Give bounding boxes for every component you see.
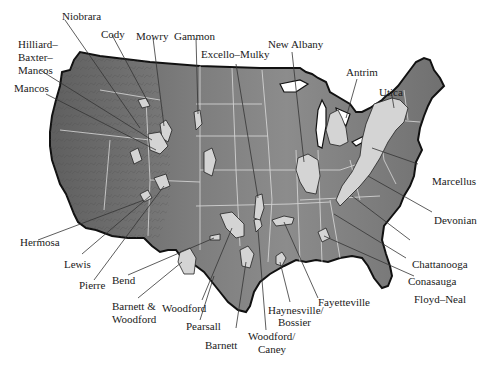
label-lewis: Lewis <box>64 258 91 270</box>
label-fayetteville: Fayetteville <box>318 296 370 308</box>
label-marcellus: Marcellus <box>432 175 476 187</box>
label-gammon: Gammon <box>174 30 215 42</box>
label-barnett-woodford-2: Woodford <box>112 313 156 325</box>
label-cody: Cody <box>101 28 125 40</box>
label-new-albany: New Albany <box>268 38 323 50</box>
label-bend: Bend <box>112 274 135 286</box>
label-haynesville-bossier-1: Haynesville/ <box>268 304 324 316</box>
label-hilliard: Hilliard– <box>18 38 58 50</box>
label-hermosa: Hermosa <box>20 236 60 248</box>
label-devonian: Devonian <box>434 214 477 226</box>
label-excello-mulky: Excello–Mulky <box>201 48 269 60</box>
label-mowry: Mowry <box>136 30 168 42</box>
label-antrim: Antrim <box>346 66 378 78</box>
label-chattanooga: Chattanooga <box>412 258 468 270</box>
label-mancos-2: Mancos <box>14 82 49 94</box>
label-conasauga: Conasauga <box>408 275 456 287</box>
label-utica: Utica <box>379 86 403 98</box>
label-baxter: Baxter– <box>18 51 53 63</box>
label-haynesville-bossier-2: Bossier <box>278 316 311 328</box>
label-mancos-1: Mancos <box>18 64 53 76</box>
label-barnett-woodford-1: Barnett & <box>112 300 156 312</box>
label-niobrara: Niobrara <box>62 10 101 22</box>
label-woodford-caney-2: Caney <box>258 343 286 355</box>
shale-gas-plays-map: Niobrara Cody Mowry Gammon Excello–Mulky… <box>0 0 487 365</box>
label-floyd-neal: Floyd–Neal <box>414 293 466 305</box>
label-barnett: Barnett <box>205 339 237 351</box>
label-woodford: Woodford <box>162 302 206 314</box>
label-pearsall: Pearsall <box>186 320 221 332</box>
label-pierre: Pierre <box>79 279 105 291</box>
label-woodford-caney-1: Woodford/ <box>248 330 295 342</box>
